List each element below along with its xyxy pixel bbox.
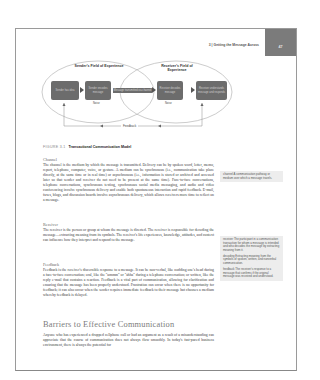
section-receiver: Receiver The receiver is the person or g…	[43, 222, 214, 243]
channel-bar: Message transmitted via channel	[113, 88, 152, 93]
feedback-label: Feedback	[121, 124, 138, 128]
sender-idea-box: Sender has idea	[51, 81, 79, 100]
glossary-entry: channel A communication pathway or mediu…	[223, 173, 280, 180]
section-heading: Feedback	[43, 262, 214, 267]
glossary-entry: feedback The receiver's response to a me…	[223, 268, 280, 279]
glossary-box-receiver: receiver The participant in a communicat…	[220, 236, 283, 281]
page-number-tab: 47	[265, 29, 296, 56]
arrow-decode-to-respond	[191, 87, 195, 93]
section-channel: Channel The channel is the medium by whi…	[43, 157, 214, 203]
glossary-box-channel: channel A communication pathway or mediu…	[220, 171, 283, 182]
running-header: 3 | Getting the Message Across	[209, 43, 259, 47]
glossary-entry: receiver The participant in a communicat…	[223, 238, 280, 252]
page-number: 47	[265, 45, 296, 49]
feedback-arrow-right	[158, 125, 161, 128]
figure-caption: FIGURE 3.1 Transactional Communication M…	[43, 145, 131, 149]
receiver-decodes-box: Receiver decodes message	[157, 81, 183, 100]
receiver-responds-box: Receiver understands message and respond…	[196, 81, 227, 100]
feedback-arrow-receiver	[201, 103, 204, 106]
section-paragraph: Anyone who has experienced a dropped cel…	[43, 333, 214, 348]
feedback-arrow-sender	[63, 103, 66, 106]
arrow-idea-to-encode	[80, 87, 84, 93]
receiver-noise-label: Noise	[165, 102, 172, 105]
feedback-loop-line	[64, 103, 202, 126]
barriers-heading: Barriers to Effective Communication	[43, 320, 174, 329]
sender-field-label: Sender's Field of Experience	[74, 64, 124, 68]
section-paragraph: The receiver is the person or group at w…	[43, 228, 214, 243]
transactional-model-figure: Sender's Field of Experience Receiver's …	[38, 59, 233, 134]
section-feedback: Feedback Feedback is the receiver's disc…	[43, 262, 214, 298]
sender-encodes-box: Sender encodes message	[85, 81, 111, 100]
figure-number: FIGURE 3.1	[43, 145, 66, 149]
section-paragraph: Feedback is the receiver's discernible r…	[43, 268, 214, 298]
receiver-field-label: Receiver's Field of Experience	[152, 64, 202, 73]
glossary-entry: decoding Extracting meaning from the sym…	[223, 255, 280, 266]
section-paragraph: The channel is the medium by which the m…	[43, 163, 214, 203]
section-heading: Channel	[43, 157, 214, 162]
figure-title: Transactional Communication Model	[69, 145, 132, 149]
feedback-arrow-left	[100, 125, 103, 128]
section-heading: Receiver	[43, 222, 214, 227]
section-barriers: Anyone who has experienced a dropped cel…	[43, 333, 214, 348]
sender-noise-label: Noise	[93, 102, 100, 105]
